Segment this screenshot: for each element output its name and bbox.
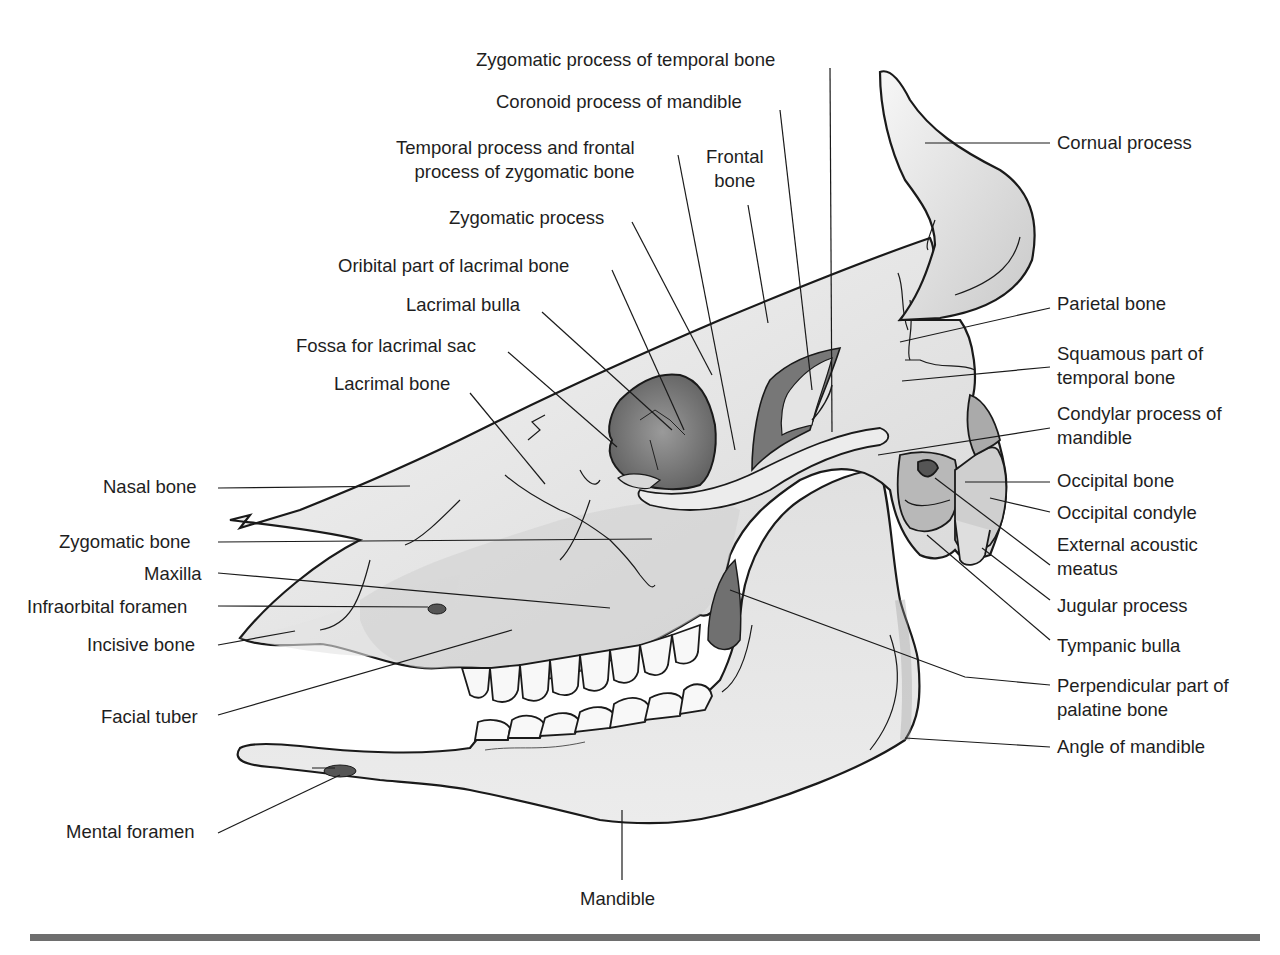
infraorbital-foramen: [428, 604, 446, 614]
label-zygomatic-bone: Zygomatic bone: [59, 530, 191, 554]
label-mandible: Mandible: [580, 887, 655, 911]
label-tympanic-bulla: Tympanic bulla: [1057, 634, 1180, 658]
label-mental-foramen: Mental foramen: [66, 820, 195, 844]
label-orbital-part-of-lacrimal-bone: Oribital part of lacrimal bone: [338, 254, 569, 278]
label-infraorbital-foramen: Infraorbital foramen: [27, 595, 187, 619]
label-incisive-bone: Incisive bone: [87, 633, 195, 657]
label-cornual-process: Cornual process: [1057, 131, 1192, 155]
label-maxilla: Maxilla: [144, 562, 202, 586]
label-coronoid-process-of-mandible: Coronoid process of mandible: [496, 90, 742, 114]
label-temporal-and-frontal-process-of-zygomatic-bone: Temporal process and frontal process of …: [396, 136, 635, 184]
label-nasal-bone: Nasal bone: [103, 475, 197, 499]
figure-divider-rule: [30, 934, 1260, 941]
label-fossa-for-lacrimal-sac: Fossa for lacrimal sac: [296, 334, 476, 358]
label-condylar-process-of-mandible: Condylar process of mandible: [1057, 402, 1222, 450]
label-zygomatic-process: Zygomatic process: [449, 206, 604, 230]
label-occipital-bone: Occipital bone: [1057, 469, 1174, 493]
label-occipital-condyle: Occipital condyle: [1057, 501, 1197, 525]
label-zygomatic-process-of-temporal-bone: Zygomatic process of temporal bone: [476, 48, 775, 72]
label-parietal-bone: Parietal bone: [1057, 292, 1166, 316]
label-lacrimal-bulla: Lacrimal bulla: [406, 293, 520, 317]
label-facial-tuber: Facial tuber: [101, 705, 198, 729]
label-frontal-bone: Frontal bone: [706, 145, 764, 193]
label-jugular-process: Jugular process: [1057, 594, 1188, 618]
label-squamous-part-of-temporal-bone: Squamous part of temporal bone: [1057, 342, 1203, 390]
label-external-acoustic-meatus: External acoustic meatus: [1057, 533, 1198, 581]
label-angle-of-mandible: Angle of mandible: [1057, 735, 1205, 759]
label-perpendicular-part-of-palatine-bone: Perpendicular part of palatine bone: [1057, 674, 1229, 722]
label-lacrimal-bone: Lacrimal bone: [334, 372, 450, 396]
